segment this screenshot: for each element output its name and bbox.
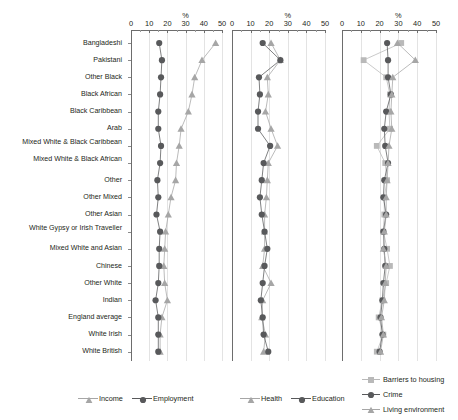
data-point-square [361, 57, 367, 63]
legend-label: Income [99, 394, 123, 403]
legend-item[interactable]: Employment [132, 394, 194, 403]
legend-panel-health-education: Health Education [240, 394, 354, 405]
legend-panel-barriers-crime-living: Barriers to housing Crime Living environ… [362, 372, 444, 417]
legend-swatch [78, 394, 98, 403]
data-point-square [374, 143, 380, 149]
legend-marker-square [367, 376, 375, 384]
legend-item[interactable]: Education [291, 394, 344, 403]
legend-panel-income-employment: Income Employment [78, 394, 203, 405]
legend-swatch [240, 394, 260, 403]
legend-marker-triangle [247, 396, 255, 404]
legend-label: Education [312, 394, 344, 403]
legend-swatch [132, 394, 152, 403]
legend-label: Employment [153, 394, 194, 403]
legend-item[interactable]: Health [240, 394, 282, 403]
legend-item[interactable]: Living environment [362, 402, 444, 417]
chart-figure: BangladeshiPakistaniOther BlackBlack Afr… [0, 0, 458, 420]
legend-swatch [362, 405, 380, 414]
legend-marker-circle [298, 396, 306, 404]
legend-label: Health [261, 394, 282, 403]
data-point-circle [385, 57, 391, 63]
legend-marker-circle [139, 396, 147, 404]
legend-label: Crime [383, 390, 402, 399]
legend-marker-circle [367, 391, 375, 399]
legend-label: Living environment [383, 405, 444, 414]
legend-item[interactable]: Income [78, 394, 123, 403]
legend-swatch [362, 390, 380, 399]
data-point-circle [381, 126, 387, 132]
legend-swatch [362, 375, 380, 384]
legend-marker-triangle [367, 406, 375, 414]
panel-barriers-crime-living: 01020304050% [0, 0, 458, 420]
data-point-circle [384, 40, 390, 46]
legend-swatch [291, 394, 311, 403]
series-layer [0, 0, 458, 420]
legend-label: Barriers to housing [383, 375, 444, 384]
legend-item[interactable]: Barriers to housing [362, 372, 444, 387]
legend-marker-triangle [85, 396, 93, 404]
legend-item[interactable]: Crime [362, 387, 444, 402]
